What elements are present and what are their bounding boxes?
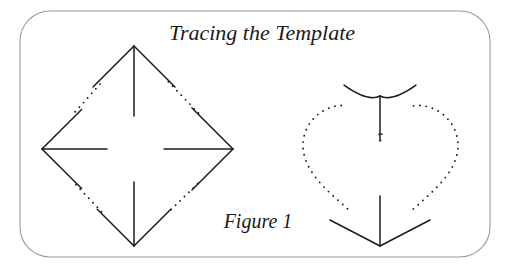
outline-dot	[179, 200, 181, 202]
outline-dot	[92, 202, 94, 204]
outline-dot	[87, 97, 89, 99]
outline-dot	[83, 102, 85, 104]
outline-dot	[381, 133, 383, 135]
outline-dot	[302, 141, 304, 143]
outline-dot	[78, 106, 80, 108]
outline-dot	[308, 166, 310, 168]
outline-dot	[189, 103, 191, 105]
outline-dot	[176, 90, 178, 92]
outline-dot	[451, 123, 453, 125]
outline-dot	[457, 141, 459, 143]
outline-dot	[319, 181, 321, 183]
outline-dot	[457, 148, 459, 150]
outline-dot	[347, 208, 349, 210]
outline-dot	[188, 191, 190, 193]
figure-title: Tracing the Template	[169, 20, 355, 45]
outline-dot	[303, 154, 305, 156]
outline-dot	[99, 83, 101, 85]
figure-caption: Figure 1	[223, 210, 293, 233]
tracing-template-figure: Tracing the Template Figure 1	[0, 0, 511, 271]
outline-dot	[427, 195, 429, 197]
outline-dot	[451, 166, 453, 168]
outline-dot	[454, 129, 456, 131]
outline-dot	[442, 114, 444, 116]
outline-dot	[412, 208, 414, 210]
outline-dot	[323, 186, 325, 188]
outline-dot	[328, 107, 330, 109]
outline-dot	[96, 206, 98, 208]
outline-dot	[337, 199, 339, 201]
outline-dot	[342, 204, 344, 206]
outline-dot	[303, 135, 305, 137]
outline-dot	[308, 123, 310, 125]
outline-dot	[91, 92, 93, 94]
outline-dot	[175, 204, 177, 206]
outline-dot	[436, 186, 438, 188]
outline-dot	[315, 176, 317, 178]
outline-dot	[88, 197, 90, 199]
outline-dot	[425, 105, 427, 107]
outline-dot	[312, 118, 314, 120]
outline-dot	[456, 135, 458, 137]
outline-dot	[305, 160, 307, 162]
outline-dot	[332, 195, 334, 197]
outline-dot	[84, 193, 86, 195]
outline-dot	[431, 107, 433, 109]
outline-dot	[311, 171, 313, 173]
outline-dot	[185, 99, 187, 101]
outline-dot	[328, 191, 330, 193]
outline-dot	[317, 114, 319, 116]
outline-dot	[440, 182, 442, 184]
outline-dot	[454, 160, 456, 162]
outline-dot	[95, 88, 97, 90]
outline-dot	[417, 204, 419, 206]
outline-dot	[305, 129, 307, 131]
outline-dot	[180, 94, 182, 96]
outline-dot	[444, 177, 446, 179]
outline-dot	[456, 154, 458, 156]
outline-dot	[334, 105, 336, 107]
figure-container: Tracing the Template Figure 1	[0, 0, 511, 271]
outline-dot	[302, 148, 304, 150]
outline-dot	[74, 111, 76, 113]
outline-dot	[422, 199, 424, 201]
outline-dot	[340, 105, 342, 107]
outline-dot	[413, 105, 415, 107]
outline-dot	[419, 105, 421, 107]
outline-dot	[184, 196, 186, 198]
outline-dot	[431, 191, 433, 193]
outline-dot	[322, 110, 324, 112]
outline-dot	[448, 171, 450, 173]
outline-dot	[437, 110, 439, 112]
outline-dot	[447, 118, 449, 120]
